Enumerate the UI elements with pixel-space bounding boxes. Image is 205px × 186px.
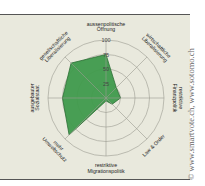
axis-label: restriktiveFinanzpolitik — [172, 84, 184, 113]
smartspider-radar-chart: 255075100aussenpolitischeÖffnungwirtscha… — [0, 0, 190, 186]
axis-spoke — [106, 98, 147, 139]
axis-label-line: Öffnung — [97, 26, 115, 32]
tick-label-50: 50 — [103, 66, 109, 72]
tick-label-25: 25 — [103, 81, 109, 87]
axis-label: ausgebauterSozialstaat — [29, 83, 41, 112]
tick-label-75: 75 — [103, 52, 109, 58]
axis-label: restriktiveMigrationspolitik — [87, 162, 125, 174]
axis-label-line: Migrationspolitik — [87, 168, 125, 174]
axis-label-line: Sozialstaat — [34, 85, 40, 111]
credit-text: © www.smartvote.ch, www.sotomo.ch — [186, 48, 196, 180]
axis-label-line: Finanzpolitik — [172, 84, 178, 113]
axis-label: aussenpolitischeÖffnung — [87, 21, 125, 33]
tick-label-100: 100 — [101, 37, 110, 43]
